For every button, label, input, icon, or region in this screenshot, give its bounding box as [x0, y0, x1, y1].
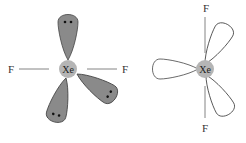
fluorine-right-label: F [122, 63, 128, 75]
xef2-orbital-diagram: Xe F F Xe F F [0, 0, 246, 143]
fluorine-bottom-label: F [202, 122, 208, 134]
fluorine-left-label: F [8, 63, 14, 75]
orbital-lobe-left [153, 59, 199, 79]
right-diagram: Xe F F [153, 2, 238, 134]
lone-pair-lobe-lower-left [45, 75, 76, 124]
left-diagram: Xe F F [8, 15, 128, 125]
lone-pair-lobe-lower-right [72, 66, 121, 107]
xe-label: Xe [62, 64, 74, 75]
xe-label: Xe [199, 64, 211, 75]
fluorine-top-label: F [203, 2, 209, 14]
lone-pair-lobe-top [58, 15, 78, 61]
